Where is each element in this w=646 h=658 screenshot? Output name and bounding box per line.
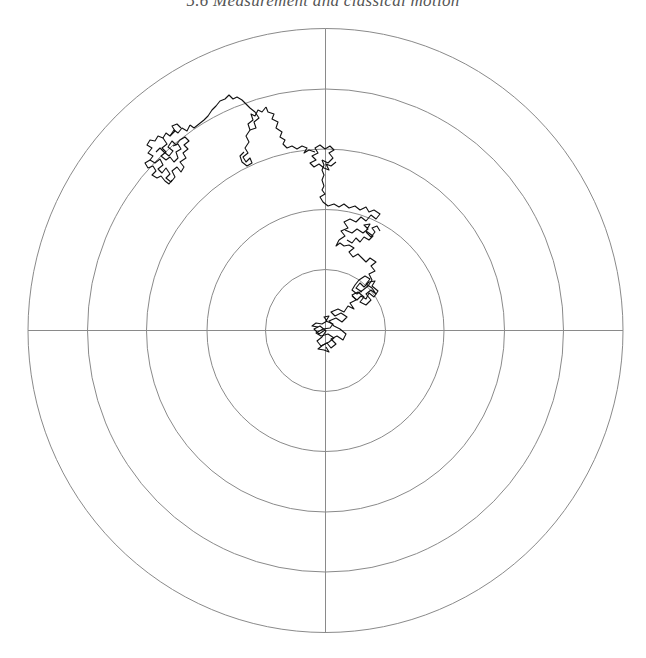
polar-figure [0, 0, 646, 658]
random-walk-path [145, 95, 380, 352]
